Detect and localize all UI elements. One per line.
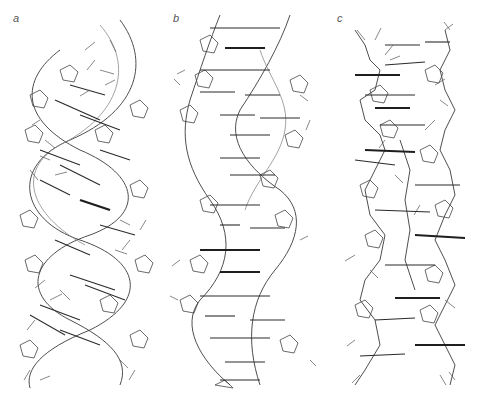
z-dna-helix-model bbox=[325, 0, 484, 393]
panel-a-dna-form: a bbox=[0, 0, 160, 393]
panel-label-a: a bbox=[13, 12, 19, 24]
dna-helix-figure: a bbox=[0, 0, 484, 393]
b-dna-helix-model bbox=[160, 0, 325, 393]
panel-c-dna-form: c bbox=[325, 0, 484, 393]
panel-label-c: c bbox=[337, 12, 343, 24]
panel-b-dna-form: b bbox=[160, 0, 325, 393]
a-dna-helix-model bbox=[0, 0, 160, 393]
panel-label-b: b bbox=[173, 12, 179, 24]
